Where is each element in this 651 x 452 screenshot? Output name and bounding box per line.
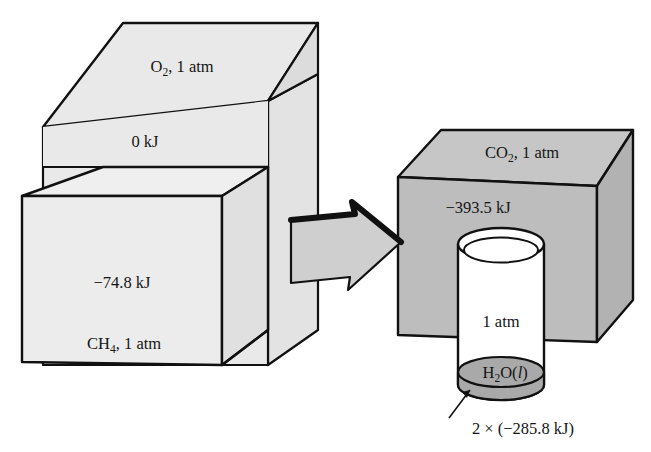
water-beaker-rim-inner — [464, 238, 538, 263]
enthalpy-diagram: O2, 1 atm 0 kJ −74.8 kJ CH4, 1 atm CO2, … — [0, 0, 651, 452]
carbon-dioxide-species-label: CO2, 1 atm — [456, 143, 580, 164]
reactants-group: O2, 1 atm 0 kJ −74.8 kJ CH4, 1 atm — [22, 23, 318, 365]
oxygen-energy-label: 0 kJ — [131, 132, 159, 151]
diagram-canvas: O2, 1 atm 0 kJ −74.8 kJ CH4, 1 atm CO2, … — [0, 0, 651, 452]
water-species-label: H2O(l) — [454, 363, 549, 384]
carbon-dioxide-energy-label: −393.5 kJ — [445, 198, 511, 217]
products-group: CO2, 1 atm −393.5 kJ 1 atm H2O(l) 2 × (−… — [398, 130, 633, 438]
water-beaker-pressure-label: 1 atm — [482, 312, 519, 331]
methane-energy-label: −74.8 kJ — [94, 273, 152, 292]
water-callout-label: 2 × (−285.8 kJ) — [472, 419, 574, 438]
oxygen-species-label: O2, 1 atm — [122, 57, 235, 78]
methane-species-label: CH4, 1 atm — [58, 334, 182, 355]
